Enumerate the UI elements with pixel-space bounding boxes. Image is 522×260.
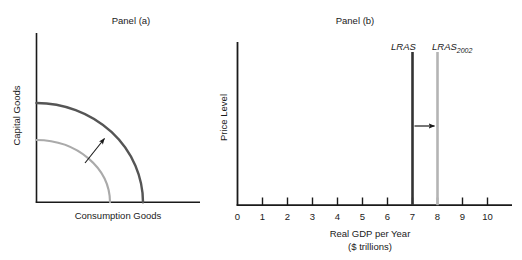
panel-b-y-axis-label: Price Level: [218, 78, 229, 158]
x-tick-label-2: 2: [280, 211, 296, 222]
x-tick-label-8: 8: [430, 211, 446, 222]
ppc-curve-shifted: [37, 103, 144, 202]
x-tick-label-9: 9: [455, 211, 471, 222]
lras-curve-label: LRAS: [391, 41, 416, 52]
ppc-curve-initial: [37, 140, 111, 202]
x-tick-label-5: 5: [355, 211, 371, 222]
x-tick-label-4: 4: [330, 211, 346, 222]
economics-figure: Panel (a) Panel (b): [0, 0, 522, 260]
lras-2002-curve-label-subscript: 2002: [457, 47, 473, 54]
panel-a-axes: [36, 33, 200, 203]
lras-curve-label-text: LRAS: [391, 41, 416, 52]
panel-a-y-axis-label: Capital Goods: [11, 76, 22, 156]
panel-b-axes: [237, 42, 512, 206]
panel-a-growth-arrow: [85, 139, 105, 164]
x-tick-label-10: 10: [480, 211, 496, 222]
panel-a-x-axis-label: Consumption Goods: [48, 210, 188, 221]
x-tick-label-1: 1: [255, 211, 271, 222]
panel-b-x-axis-label-line2: ($ trillions): [310, 241, 430, 252]
panel-b-x-tick-marks: [263, 198, 488, 206]
lras-2002-curve-label: LRAS2002: [432, 41, 472, 54]
panel-b-x-axis-label-line1: Real GDP per Year: [310, 228, 430, 239]
x-tick-label-7: 7: [405, 211, 421, 222]
x-tick-label-3: 3: [305, 211, 321, 222]
lras-2002-curve-label-text: LRAS: [432, 41, 457, 52]
x-tick-label-6: 6: [380, 211, 396, 222]
x-tick-label-0: 0: [230, 211, 246, 222]
